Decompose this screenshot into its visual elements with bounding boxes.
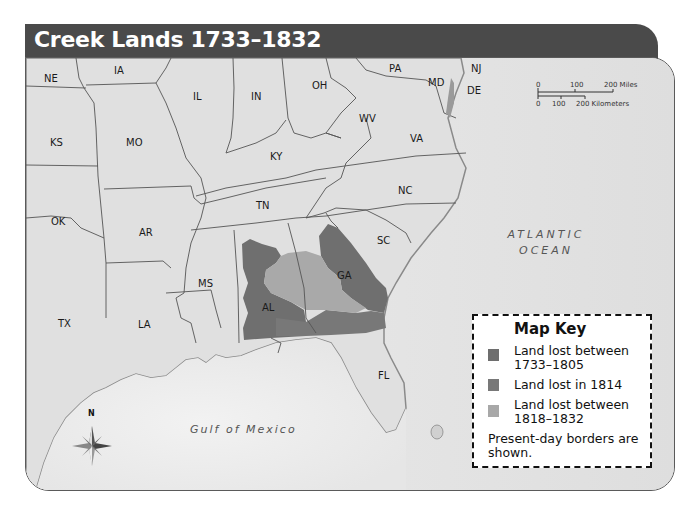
map-key: Map Key Land lost between 1733–1805 Land… <box>472 314 652 468</box>
state-label-il: IL <box>193 91 202 102</box>
atlantic-label-line2: OCEAN <box>496 244 596 257</box>
atlantic-ocean-label: ATLANTIC OCEAN <box>496 228 596 257</box>
key-label-line2: 1818–1832 <box>514 412 629 426</box>
swatch-1818-1832 <box>488 405 499 417</box>
state-label-pa: PA <box>389 63 401 74</box>
lake-okeechobee <box>431 425 443 439</box>
swatch-1733-1805 <box>488 349 499 361</box>
state-label-nj: NJ <box>471 63 481 74</box>
state-label-in: IN <box>251 91 261 102</box>
scale-miles-0: 0 <box>536 81 540 89</box>
map-key-note: Present-day borders are shown. <box>488 432 648 460</box>
state-label-oh: OH <box>312 80 327 91</box>
state-label-fl: FL <box>378 370 389 381</box>
state-label-ne: NE <box>44 73 58 84</box>
scale-bar: 0 100 200 Miles 0 100 200 Kilometers <box>536 80 656 110</box>
state-label-ar: AR <box>139 227 153 238</box>
state-label-mo: MO <box>126 137 143 148</box>
state-label-nc: NC <box>398 185 412 196</box>
scale-km-0: 0 <box>536 100 540 108</box>
state-label-ia: IA <box>114 65 124 76</box>
state-label-ga: GA <box>337 270 352 281</box>
compass-north-label: N <box>88 409 95 418</box>
scale-km-200: 200 Kilometers <box>576 100 629 108</box>
state-label-la: LA <box>138 319 151 330</box>
key-label-line1: Land lost between <box>514 344 629 358</box>
scale-km-100: 100 <box>552 100 565 108</box>
scale-miles-200: 200 Miles <box>604 81 637 89</box>
swatch-1814 <box>488 379 499 391</box>
state-label-ms: MS <box>198 278 213 289</box>
state-label-de: DE <box>467 85 481 96</box>
state-label-ky: KY <box>270 151 282 162</box>
state-label-tn: TN <box>256 200 270 211</box>
state-label-va: VA <box>410 133 423 144</box>
map-frame: NEIAILINOHPANJMDDEWVVAKSMOKYNCTNOKARSCGA… <box>25 57 675 491</box>
state-label-al: AL <box>262 302 274 313</box>
key-label-line1: Land lost between <box>514 398 629 412</box>
map-title: Creek Lands 1733–1832 <box>34 27 321 52</box>
state-label-ks: KS <box>50 137 63 148</box>
state-label-wv: WV <box>359 113 376 124</box>
state-label-md: MD <box>428 77 444 88</box>
state-label-ok: OK <box>51 216 65 227</box>
state-label-sc: SC <box>377 235 390 246</box>
state-label-tx: TX <box>58 318 71 329</box>
key-label-line1: Land lost in 1814 <box>514 378 622 392</box>
key-label-line2: 1733–1805 <box>514 358 629 372</box>
map-key-title: Map Key <box>514 320 586 338</box>
gulf-of-mexico-label: Gulf of Mexico <box>190 423 297 436</box>
scale-miles-100: 100 <box>570 81 583 89</box>
atlantic-label-line1: ATLANTIC <box>496 228 596 241</box>
